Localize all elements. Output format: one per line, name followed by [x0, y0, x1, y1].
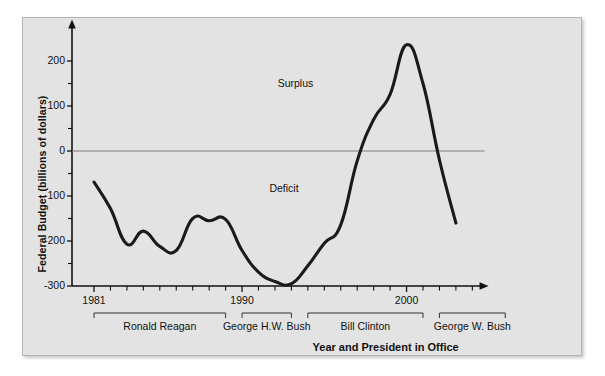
- y-tick-label: -300: [31, 279, 65, 291]
- chart-figure-frame: Federal Budget (billions of dollars) Yea…: [22, 17, 582, 356]
- y-tick-label: -100: [31, 189, 65, 201]
- axis-ticks: [67, 61, 472, 292]
- president-bracket-label: Bill Clinton: [305, 320, 425, 332]
- region-label-surplus: Surplus: [278, 77, 314, 89]
- y-tick-label: 0: [31, 144, 65, 156]
- y-tick-label: 200: [31, 54, 65, 66]
- axes-group: [68, 20, 488, 290]
- x-axis-title: Year and President in Office: [313, 341, 459, 353]
- president-bracket-label: George W. Bush: [412, 320, 532, 332]
- budget-line-chart: [23, 18, 583, 357]
- x-tick-label: 2000: [384, 294, 430, 306]
- region-label-deficit: Deficit: [269, 182, 298, 194]
- president-brackets: [94, 313, 505, 318]
- y-tick-label: 100: [31, 99, 65, 111]
- president-bracket-label: Ronald Reagan: [100, 320, 220, 332]
- x-tick-label: 1990: [219, 294, 265, 306]
- data-line-group: [94, 45, 456, 286]
- x-tick-label: 1981: [71, 294, 117, 306]
- y-tick-label: -200: [31, 234, 65, 246]
